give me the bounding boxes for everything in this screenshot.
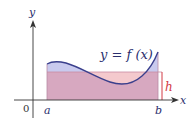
a-label: a (44, 104, 51, 117)
mean-value-diagram: y x 0 a b h y = f (x) (0, 0, 191, 121)
b-label: b (155, 104, 162, 117)
y-axis-label: y (28, 6, 36, 19)
height-label: h (165, 80, 173, 94)
curve-label: y = f (x) (99, 47, 153, 62)
x-axis-label: x (180, 94, 187, 107)
origin-label: 0 (23, 103, 29, 114)
